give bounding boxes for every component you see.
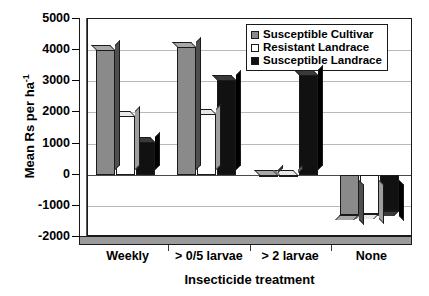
bar-chart: Mean Rs per ha-1 500040003000200010000-1… (0, 0, 429, 296)
bar (177, 47, 196, 175)
bar-face (177, 47, 196, 175)
legend-swatch (251, 44, 259, 52)
bar-side (216, 104, 221, 170)
y-axis-tickmark (72, 205, 79, 206)
bar-side (135, 106, 140, 170)
bar-side (115, 40, 120, 170)
y-axis-ticklabel: 1000 (18, 136, 70, 150)
x-axis-tickmark (331, 245, 332, 251)
legend-item: Susceptible Landrace (251, 54, 382, 67)
bar-top (335, 215, 359, 220)
legend-swatch (251, 57, 259, 65)
y-axis-ticklabel: -2000 (18, 229, 70, 243)
bar-side (359, 180, 364, 225)
legend-swatch (251, 31, 259, 39)
legend-label: Susceptible Cultivar (263, 28, 374, 41)
legend-item: Susceptible Cultivar (251, 28, 382, 41)
bar (299, 75, 318, 175)
x-axis-ticklabel: > 0/5 larvae (175, 249, 243, 263)
y-axis-tickmark (72, 18, 79, 19)
legend: Susceptible CultivarResistant LandraceSu… (246, 24, 388, 71)
bar-side (196, 37, 201, 170)
plot-left-wall (79, 18, 87, 236)
y-axis-ticklabel: -1000 (18, 198, 70, 212)
bar-side (236, 70, 241, 170)
x-axis-tickmark (250, 245, 251, 251)
y-axis-ticklabel: 3000 (18, 73, 70, 87)
bar-face (299, 75, 318, 175)
y-axis-tickmark (72, 236, 79, 237)
x-axis-ticklabel: None (356, 249, 387, 263)
x-axis-title: Insecticide treatment (87, 272, 412, 287)
y-axis-tickmark (72, 143, 79, 144)
bar-side (318, 65, 323, 170)
bar-face (96, 50, 115, 175)
y-axis-ticklabel: 5000 (18, 11, 70, 25)
bar-face (340, 175, 359, 215)
legend-label: Resistant Landrace (263, 41, 369, 54)
bar (279, 175, 298, 178)
bar-side (155, 132, 160, 170)
y-axis-ticklabel: 0 (18, 167, 70, 181)
y-axis-tickmark (72, 80, 79, 81)
bar-side (379, 180, 384, 224)
gridline (88, 81, 411, 82)
x-axis-tickmark (168, 245, 169, 251)
legend-item: Resistant Landrace (251, 41, 382, 54)
y-axis-ticklabels: 500040003000200010000-1000-2000 (18, 0, 70, 296)
bar (96, 50, 115, 175)
x-axis-ticklabel: > 2 larvae (261, 249, 318, 263)
bar-face (259, 175, 278, 178)
plot-floor (79, 236, 412, 245)
y-axis-ticklabel: 4000 (18, 42, 70, 56)
bar (259, 175, 278, 178)
bar-side (399, 180, 404, 221)
bar (340, 175, 359, 215)
y-axis-tickmark (72, 49, 79, 50)
x-axis-ticklabel: Weekly (106, 249, 149, 263)
y-axis-tickmark (72, 174, 79, 175)
bar-face (279, 175, 298, 178)
y-axis-ticklabel: 2000 (18, 104, 70, 118)
y-axis-tickmark (72, 111, 79, 112)
